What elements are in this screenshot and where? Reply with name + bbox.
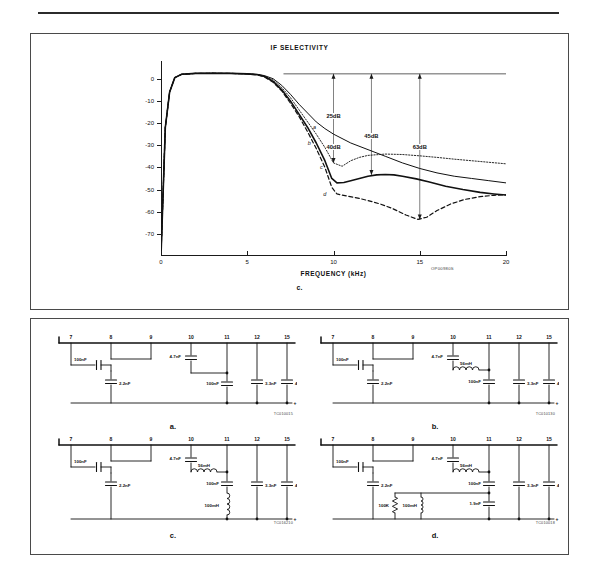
svg-text:2.2nF: 2.2nF	[381, 483, 393, 488]
svg-text:100nF: 100nF	[468, 481, 481, 486]
svg-text:10: 10	[188, 334, 194, 340]
y-tick-label: -70	[145, 231, 154, 237]
circuit-svg-d: 78910111215+100nF2.2nF4.7nF56mH100nF100K…	[311, 431, 559, 543]
x-tick	[420, 251, 421, 256]
y-tick	[157, 167, 162, 168]
svg-text:4.7nF: 4.7nF	[170, 354, 182, 359]
datasheet-page: IF SELECTIVITY FREQUENCY (kHz) 0-10-20-3…	[0, 0, 597, 572]
svg-text:8: 8	[110, 436, 113, 442]
figure-13-panel: 78910111215+100nF2.2nF4.7nF100nF3.3nF4.7…	[30, 318, 569, 555]
svg-text:11: 11	[486, 436, 492, 442]
y-tick	[157, 234, 162, 235]
svg-text:100mH: 100mH	[205, 503, 219, 508]
y-tick-label: -40	[145, 164, 154, 170]
circuit-diagram-b: 78910111215+100nF2.2nF4.7nF56mH100nF3.3n…	[311, 329, 559, 434]
svg-text:4.7 µF: 4.7 µF	[557, 483, 559, 488]
page-top-rule	[38, 12, 559, 14]
circuit-diagram-a: 78910111215+100nF2.2nF4.7nF100nF3.3nF4.7…	[49, 329, 297, 434]
svg-text:+: +	[556, 516, 559, 522]
svg-text:+: +	[294, 516, 297, 522]
svg-text:2.2nF: 2.2nF	[381, 381, 393, 386]
x-tick	[334, 251, 335, 256]
svg-text:3.3nF: 3.3nF	[265, 381, 277, 386]
svg-text:100nF: 100nF	[206, 481, 219, 486]
x-tick-label: 15	[416, 259, 423, 265]
db-annotation: 63dB	[412, 144, 428, 150]
svg-text:7: 7	[70, 334, 73, 340]
svg-text:10: 10	[188, 436, 194, 442]
svg-text:8: 8	[372, 334, 375, 340]
svg-text:15: 15	[284, 334, 290, 340]
svg-text:9: 9	[412, 334, 415, 340]
curve-label-a: a	[313, 124, 316, 130]
circuit-svg-b: 78910111215+100nF2.2nF4.7nF56mH100nF3.3n…	[311, 329, 559, 434]
svg-text:100nF: 100nF	[206, 381, 219, 386]
svg-text:15: 15	[546, 436, 552, 442]
svg-text:3.3nF: 3.3nF	[527, 381, 539, 386]
circuit-code-b: TC010130	[536, 412, 555, 416]
svg-text:2.2nF: 2.2nF	[119, 381, 131, 386]
svg-text:+: +	[294, 400, 297, 406]
svg-text:15: 15	[284, 436, 290, 442]
svg-text:15: 15	[546, 334, 552, 340]
x-axis-title: FREQUENCY (kHz)	[161, 270, 506, 277]
x-tick	[161, 251, 162, 256]
y-tick-label: -60	[145, 209, 154, 215]
svg-text:3.3nF: 3.3nF	[527, 483, 539, 488]
x-tick-label: 5	[246, 259, 249, 265]
x-tick	[506, 251, 507, 256]
svg-text:100nF: 100nF	[336, 357, 349, 362]
y-tick-label: -10	[145, 98, 154, 104]
chart-curves	[161, 61, 506, 256]
svg-text:10: 10	[450, 436, 456, 442]
y-tick	[157, 212, 162, 213]
chart-title: IF SELECTIVITY	[31, 44, 568, 51]
db-annotation: 40dB	[325, 144, 341, 150]
chart-source-code: OP00980S	[431, 266, 454, 271]
svg-text:4.7nF: 4.7nF	[170, 456, 182, 461]
y-tick-label: -50	[145, 187, 154, 193]
x-tick-label: 20	[503, 259, 510, 265]
svg-text:12: 12	[254, 334, 260, 340]
svg-text:100K: 100K	[379, 503, 390, 508]
svg-text:12: 12	[516, 334, 522, 340]
y-tick-label: 0	[151, 76, 154, 82]
circuit-code-d: TC010018	[536, 521, 555, 525]
y-tick	[157, 145, 162, 146]
figure-12-subletter: c.	[31, 284, 568, 291]
circuit-code-a: TC010015	[274, 412, 293, 416]
circuit-letter-d: d.	[311, 531, 559, 540]
svg-text:100nF: 100nF	[74, 357, 87, 362]
svg-text:100nF: 100nF	[74, 459, 87, 464]
svg-text:12: 12	[516, 436, 522, 442]
svg-text:56mH: 56mH	[460, 463, 472, 468]
svg-text:4.7nF: 4.7nF	[432, 456, 444, 461]
svg-text:8: 8	[372, 436, 375, 442]
svg-text:100nF: 100nF	[468, 379, 481, 384]
svg-text:4.7 µF: 4.7 µF	[557, 381, 559, 386]
svg-text:7: 7	[332, 334, 335, 340]
circuit-code-c: TC016210	[274, 521, 293, 525]
svg-text:12: 12	[254, 436, 260, 442]
svg-text:9: 9	[150, 334, 153, 340]
svg-text:11: 11	[486, 334, 492, 340]
if-selectivity-chart: FREQUENCY (kHz) 0-10-20-30-40-50-60-7005…	[161, 61, 506, 256]
svg-text:56mH: 56mH	[460, 361, 472, 366]
circuit-letter-c: c.	[49, 531, 297, 540]
svg-text:8: 8	[110, 334, 113, 340]
svg-text:4.7 µF: 4.7 µF	[295, 381, 297, 386]
y-tick-label: -30	[145, 142, 154, 148]
y-tick	[157, 123, 162, 124]
circuit-svg-c: 78910111215+100nF2.2nF4.7nF56mH100nF100m…	[49, 431, 297, 543]
svg-text:7: 7	[70, 436, 73, 442]
svg-text:3.3nF: 3.3nF	[265, 483, 277, 488]
svg-text:2.2nF: 2.2nF	[119, 483, 131, 488]
y-tick	[157, 79, 162, 80]
circuit-diagram-c: 78910111215+100nF2.2nF4.7nF56mH100nF100m…	[49, 431, 297, 543]
svg-text:56mH: 56mH	[198, 463, 210, 468]
curve-label-c: c	[320, 164, 323, 170]
x-tick-label: 0	[159, 259, 162, 265]
svg-text:4.7 µF: 4.7 µF	[295, 483, 297, 488]
svg-text:+: +	[556, 400, 559, 406]
svg-text:100nF: 100nF	[336, 459, 349, 464]
